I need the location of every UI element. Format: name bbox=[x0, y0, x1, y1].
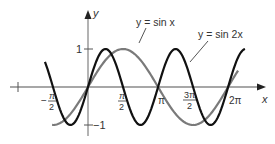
svg-text:2: 2 bbox=[49, 102, 54, 112]
svg-text:2: 2 bbox=[187, 101, 192, 111]
leader-sin-2x bbox=[190, 41, 208, 62]
y-tick-label-neg1: −1 bbox=[93, 119, 106, 131]
x-tick-label-3pi-over-2: 3π 2 bbox=[183, 90, 196, 111]
x-tick-label-pi-over-2: π 2 bbox=[118, 91, 126, 112]
y-axis-label: y bbox=[92, 7, 100, 19]
svg-text:π: π bbox=[119, 91, 126, 101]
x-tick-label-neg-pi-over-2: − π 2 bbox=[41, 91, 56, 112]
svg-text:−: − bbox=[41, 95, 47, 106]
leader-sin-x bbox=[139, 28, 146, 43]
legend-label-sin-x: y = sin x bbox=[136, 16, 176, 28]
x-axis-arrow-icon bbox=[257, 84, 266, 91]
x-axis-label: x bbox=[261, 93, 268, 105]
x-tick-label-pi: π bbox=[158, 95, 165, 106]
x-tick-label-2pi: 2π bbox=[229, 95, 242, 106]
graph-sin-x-vs-sin-2x: y x 1 −1 − π 2 π 2 π 3π 2 2π y = sin x y… bbox=[0, 0, 275, 144]
legend-label-sin-2x: y = sin 2x bbox=[198, 28, 243, 40]
svg-text:π: π bbox=[49, 91, 56, 101]
y-tick-label-1: 1 bbox=[76, 43, 82, 55]
y-axis-arrow-icon bbox=[85, 10, 92, 19]
svg-text:3π: 3π bbox=[184, 90, 195, 100]
svg-text:2: 2 bbox=[119, 102, 124, 112]
